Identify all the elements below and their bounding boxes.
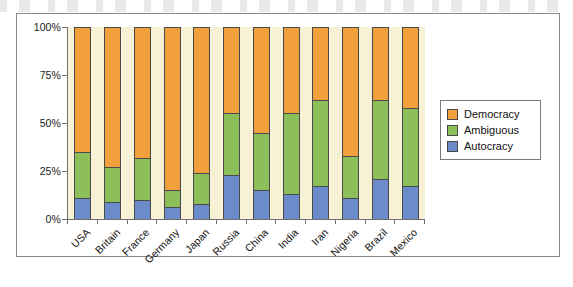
stacked-bar bbox=[372, 27, 389, 219]
bar-segment-ambiguous bbox=[193, 173, 210, 204]
chart-figure-frame: 0%25%50%75%100% USABritainFranceGermanyJ… bbox=[16, 13, 560, 257]
bar-segment-democracy bbox=[342, 27, 359, 156]
legend-label: Ambiguous bbox=[464, 125, 519, 136]
bar-segment-ambiguous bbox=[283, 113, 300, 194]
bar-segment-ambiguous bbox=[312, 100, 329, 186]
bar-segment-democracy bbox=[372, 27, 389, 100]
legend-item-ambiguous[interactable]: Ambiguous bbox=[447, 122, 534, 138]
bar-segment-democracy bbox=[253, 27, 270, 133]
y-axis-tick-label: 75% bbox=[40, 69, 61, 81]
bar-segment-autocracy bbox=[104, 202, 121, 219]
bar-segment-autocracy bbox=[164, 207, 181, 219]
bar-segment-autocracy bbox=[223, 175, 240, 219]
stacked-bar bbox=[74, 27, 91, 219]
bar-segment-democracy bbox=[134, 27, 151, 158]
bar-segment-ambiguous bbox=[402, 108, 419, 187]
plot-area bbox=[67, 27, 425, 220]
bar-segment-autocracy bbox=[193, 204, 210, 219]
bar-segment-ambiguous bbox=[134, 158, 151, 200]
bar-segment-ambiguous bbox=[74, 152, 91, 198]
bar-segment-democracy bbox=[104, 27, 121, 167]
bar-segment-democracy bbox=[402, 27, 419, 108]
scan-artifact-band bbox=[0, 0, 573, 12]
stacked-bar bbox=[402, 27, 419, 219]
stacked-bar bbox=[342, 27, 359, 219]
bar-segment-autocracy bbox=[283, 194, 300, 219]
bar-segment-autocracy bbox=[312, 186, 329, 219]
bar-segment-autocracy bbox=[342, 198, 359, 219]
bar-segment-ambiguous bbox=[223, 113, 240, 174]
legend-label: Democracy bbox=[464, 109, 520, 120]
y-axis-tick-label: 0% bbox=[46, 213, 61, 225]
stacked-bar bbox=[283, 27, 300, 219]
legend-swatch-autocracy bbox=[447, 141, 458, 152]
y-axis-tick-label: 100% bbox=[34, 21, 61, 33]
bar-segment-democracy bbox=[312, 27, 329, 100]
bar-segment-democracy bbox=[164, 27, 181, 190]
y-axis-tick-label: 50% bbox=[40, 117, 61, 129]
y-axis-tick-label: 25% bbox=[40, 165, 61, 177]
legend-label: Autocracy bbox=[464, 141, 513, 152]
bar-segment-democracy bbox=[193, 27, 210, 173]
bar-segment-autocracy bbox=[134, 200, 151, 219]
bar-segment-democracy bbox=[223, 27, 240, 113]
stacked-bar bbox=[253, 27, 270, 219]
stacked-bar bbox=[312, 27, 329, 219]
stacked-bar bbox=[104, 27, 121, 219]
bar-segment-ambiguous bbox=[342, 156, 359, 198]
y-axis: 0%25%50%75%100% bbox=[17, 27, 61, 219]
bar-segment-ambiguous bbox=[372, 100, 389, 179]
legend-item-autocracy[interactable]: Autocracy bbox=[447, 138, 534, 154]
bar-segment-autocracy bbox=[372, 179, 389, 219]
bar-segment-autocracy bbox=[402, 186, 419, 219]
bar-segment-ambiguous bbox=[104, 167, 121, 202]
bar-segment-ambiguous bbox=[164, 190, 181, 207]
bar-segment-democracy bbox=[74, 27, 91, 152]
stacked-bar bbox=[223, 27, 240, 219]
legend-swatch-ambiguous bbox=[447, 125, 458, 136]
stacked-bar bbox=[164, 27, 181, 219]
bar-segment-democracy bbox=[283, 27, 300, 113]
bar-segment-ambiguous bbox=[253, 133, 270, 191]
legend-item-democracy[interactable]: Democracy bbox=[447, 106, 534, 122]
stacked-bar bbox=[193, 27, 210, 219]
chart-legend: DemocracyAmbiguousAutocracy bbox=[440, 100, 541, 160]
bar-segment-autocracy bbox=[74, 198, 91, 219]
stacked-bar bbox=[134, 27, 151, 219]
legend-swatch-democracy bbox=[447, 109, 458, 120]
bar-segment-autocracy bbox=[253, 190, 270, 219]
